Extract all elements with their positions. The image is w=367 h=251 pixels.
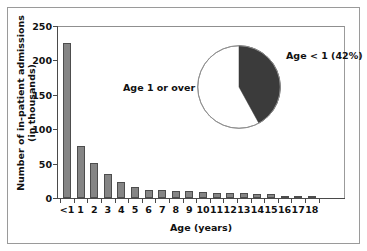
y-tick-label: 150: [32, 89, 52, 100]
y-axis-title: Number of in-patient admissions (in thou…: [15, 8, 37, 198]
x-tick-mark: [237, 199, 238, 203]
x-tick-label: 2: [91, 204, 98, 215]
x-tick-mark: [278, 199, 279, 203]
x-tick-label: 15: [264, 204, 277, 215]
bar: [213, 193, 221, 199]
bar: [199, 192, 207, 198]
y-tick-mark: [53, 60, 57, 61]
x-tick-mark: [223, 199, 224, 203]
bar: [117, 182, 125, 199]
x-tick-mark: [155, 199, 156, 203]
x-tick-label: 1: [77, 204, 84, 215]
pie-inset-chart: [196, 44, 282, 130]
y-tick-mark: [53, 26, 57, 27]
y-tick-mark: [53, 164, 57, 165]
x-tick-label: 17: [292, 204, 305, 215]
bar: [185, 191, 193, 198]
x-tick-mark: [183, 199, 184, 203]
x-tick-mark: [87, 199, 88, 203]
x-tick-label: 7: [159, 204, 166, 215]
x-tick-label: 14: [251, 204, 264, 215]
y-tick-mark: [53, 198, 57, 199]
x-tick-label: 5: [132, 204, 139, 215]
x-tick-mark: [169, 199, 170, 203]
x-tick-mark: [101, 199, 102, 203]
x-tick-label: 16: [278, 204, 291, 215]
x-tick-label: 3: [104, 204, 111, 215]
x-tick-mark: [60, 199, 61, 203]
x-tick-label: 13: [237, 204, 250, 215]
bar: [308, 196, 316, 198]
bar: [77, 146, 85, 198]
y-tick-label: 250: [32, 21, 52, 32]
x-tick-label: 12: [224, 204, 237, 215]
bar: [253, 194, 261, 198]
x-tick-mark: [319, 199, 320, 203]
x-tick-mark: [128, 199, 129, 203]
x-tick-label: <1: [60, 204, 75, 215]
y-tick-mark: [53, 129, 57, 130]
chart-figure: Number of in-patient admissions (in thou…: [0, 0, 367, 251]
x-tick-mark: [264, 199, 265, 203]
y-tick-label: 0: [45, 193, 52, 204]
y-tick-label: 100: [32, 124, 52, 135]
y-axis-line: [57, 26, 58, 199]
x-tick-mark: [210, 199, 211, 203]
x-tick-label: 6: [145, 204, 152, 215]
x-tick-mark: [115, 199, 116, 203]
bar: [145, 190, 153, 198]
bar: [63, 43, 71, 198]
x-tick-label: 11: [210, 204, 223, 215]
bar: [240, 193, 248, 199]
bar: [294, 196, 302, 198]
pie-label-age-under-1: Age < 1 (42%): [286, 50, 363, 61]
bar: [281, 196, 289, 198]
x-tick-mark: [142, 199, 143, 203]
x-axis-title: Age (years): [57, 222, 345, 233]
pie-label-age-1-or-over: Age 1 or over: [123, 82, 195, 93]
x-tick-mark: [196, 199, 197, 203]
bar: [158, 190, 166, 198]
x-tick-mark: [305, 199, 306, 203]
bar: [90, 163, 98, 198]
y-tick-label: 200: [32, 55, 52, 66]
bar: [131, 187, 139, 198]
x-tick-mark: [251, 199, 252, 203]
x-tick-label: 18: [305, 204, 318, 215]
x-tick-mark: [74, 199, 75, 203]
x-tick-label: 8: [172, 204, 179, 215]
bar: [172, 191, 180, 198]
x-tick-mark: [291, 199, 292, 203]
y-tick-mark: [53, 95, 57, 96]
x-tick-label: 9: [186, 204, 193, 215]
bar: [226, 193, 234, 199]
bar: [104, 174, 112, 198]
bar: [267, 194, 275, 198]
x-tick-label: 10: [196, 204, 209, 215]
x-tick-label: 4: [118, 204, 125, 215]
y-tick-label: 50: [39, 158, 52, 169]
